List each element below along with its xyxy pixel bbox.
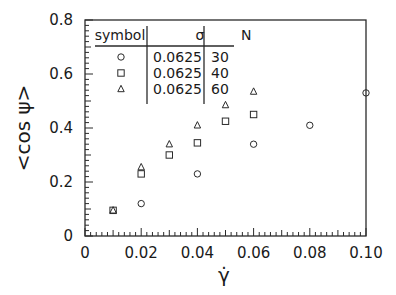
x-axis-title: γ̇ (218, 263, 230, 287)
y-tick-label: 0.8 (49, 11, 73, 29)
circle-marker-icon (118, 54, 124, 60)
legend-table: symbolσN0.0625300.0625400.062560 (95, 26, 252, 104)
square-marker-icon (138, 171, 144, 177)
triangle-marker-icon (194, 122, 200, 128)
series-square (110, 111, 257, 213)
legend-sigma: 0.0625 (153, 81, 202, 97)
circle-marker-icon (194, 171, 200, 177)
legend-n: 40 (211, 65, 229, 81)
x-tick-label: 0.08 (293, 244, 326, 262)
x-tick-label: 0.02 (124, 244, 157, 262)
series-circle (138, 90, 369, 207)
legend-header: symbol (95, 27, 146, 43)
y-tick-label: 0.2 (49, 173, 73, 191)
circle-marker-icon (138, 200, 144, 206)
x-tick-label: 0 (80, 244, 90, 262)
x-tick-label: 0.06 (237, 244, 270, 262)
x-tick-label: 0.04 (181, 244, 214, 262)
series-triangle (110, 88, 257, 213)
y-tick-label: 0.4 (49, 119, 73, 137)
legend-sigma: 0.0625 (153, 49, 202, 65)
circle-marker-icon (307, 122, 313, 128)
legend-header: N (241, 27, 251, 43)
triangle-marker-icon (250, 88, 256, 94)
scatter-chart: 00.020.040.060.080.1000.20.40.60.8 symbo… (0, 0, 396, 295)
triangle-marker-icon (166, 141, 172, 147)
legend-n: 30 (211, 49, 229, 65)
circle-marker-icon (250, 141, 256, 147)
y-axis-title: <cos ψ> (11, 85, 35, 172)
triangle-marker-icon (138, 163, 144, 169)
square-marker-icon (118, 70, 124, 76)
legend-sigma: 0.0625 (153, 65, 202, 81)
y-tick-label: 0 (63, 227, 73, 245)
x-tick-label: 0.10 (349, 244, 382, 262)
y-tick-label: 0.6 (49, 65, 73, 83)
square-marker-icon (166, 152, 172, 158)
legend-n: 60 (211, 81, 229, 97)
square-marker-icon (194, 140, 200, 146)
triangle-marker-icon (118, 85, 124, 91)
triangle-marker-icon (222, 101, 228, 107)
legend-header: σ (196, 27, 205, 43)
data-points (110, 88, 369, 214)
square-marker-icon (250, 111, 256, 117)
square-marker-icon (222, 118, 228, 124)
